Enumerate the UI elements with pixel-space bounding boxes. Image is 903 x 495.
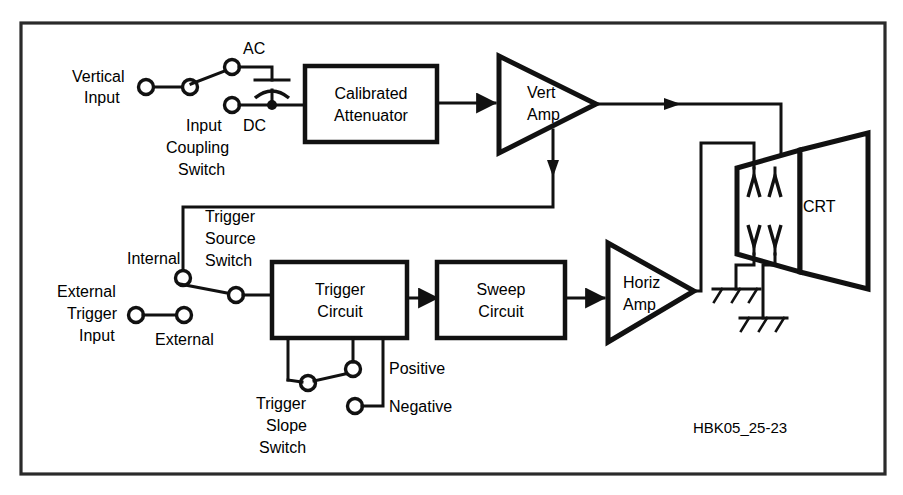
negative-contact-terminal[interactable] <box>348 399 363 414</box>
sweep-circuit-label-line1: Sweep <box>477 281 526 298</box>
external-trigger-input-terminal[interactable] <box>129 308 144 323</box>
calibrated-attenuator-label-line2: Attenuator <box>334 107 409 124</box>
trigger-source-switch-blade[interactable] <box>180 284 232 294</box>
vertical-input-label-line1: Vertical <box>72 68 124 85</box>
external-contact-terminal[interactable] <box>177 308 192 323</box>
trigger-source-switch-label-line1: Trigger <box>205 208 256 225</box>
sweep-circuit-label-line2: Circuit <box>478 303 524 320</box>
trigger-slope-switch-label-line3: Switch <box>259 439 306 456</box>
vert-amp-label-line1: Vert <box>527 84 556 101</box>
trigger-source-pole-terminal[interactable] <box>229 288 244 303</box>
trigger-circuit-block[interactable] <box>272 262 407 338</box>
calibrated-attenuator-label-line1: Calibrated <box>335 85 408 102</box>
coupling-junction-dot <box>267 100 277 110</box>
sweep-circuit-block[interactable] <box>437 262 565 338</box>
oscilloscope-block-diagram: Vertical Input AC DC Input Coupling Swit… <box>0 0 903 495</box>
external-label: External <box>155 331 214 348</box>
ground-2-hatch-3 <box>776 318 784 331</box>
ground-2-hatch-1 <box>741 318 749 331</box>
horiz-amp-block[interactable] <box>608 243 694 342</box>
ground-1-hatch-1 <box>714 289 722 302</box>
vert-amp-block[interactable] <box>499 56 596 153</box>
vertical-input-label-line2: Input <box>84 89 120 106</box>
vert-amp-label-line2: Amp <box>527 106 560 123</box>
trigger-source-switch-label-line2: Source <box>205 230 256 247</box>
negative-label: Negative <box>389 398 452 415</box>
trigger-circuit-label-line2: Circuit <box>317 303 363 320</box>
vertamp-output-arrow <box>664 98 681 110</box>
ground-2-hatch-2 <box>759 318 767 331</box>
input-coupling-switch-label-line1: Input <box>186 117 222 134</box>
negative-drop-wire <box>362 338 383 406</box>
ac-label: AC <box>243 40 265 57</box>
ac-contact-terminal[interactable] <box>225 60 240 75</box>
ground-1-hatch-2 <box>732 289 740 302</box>
external-trigger-input-label-line2: Trigger <box>67 305 118 322</box>
dc-contact-terminal[interactable] <box>225 98 240 113</box>
positive-label: Positive <box>389 360 445 377</box>
crt-label: CRT <box>803 198 836 215</box>
figure-code-label: HBK05_25-23 <box>693 419 787 436</box>
trigger-slope-switch-label-line2: Slope <box>266 417 307 434</box>
slope-pole-connector <box>288 380 302 382</box>
trigger-source-switch-label-line3: Switch <box>205 252 252 269</box>
trigger-slope-switch-label-line1: Trigger <box>256 395 307 412</box>
horiz-amp-label-line2: Amp <box>623 296 656 313</box>
crt-envelope-neck <box>737 150 800 272</box>
ground-1-hatch-3 <box>749 289 757 302</box>
crt-ground-lead-right <box>763 254 775 318</box>
ac-branch-wire <box>239 67 272 80</box>
input-coupling-switch-label-line2: Coupling <box>166 139 229 156</box>
external-trigger-input-label-line3: Input <box>79 327 115 344</box>
vertical-input-terminal[interactable] <box>139 80 154 95</box>
positive-contact-terminal[interactable] <box>346 362 361 377</box>
internal-trigger-arrow <box>547 160 559 177</box>
internal-label: Internal <box>127 250 180 267</box>
horiz-amp-label-line1: Horiz <box>623 274 660 291</box>
external-trigger-input-label-line1: External <box>57 283 116 300</box>
input-coupling-switch-label-line3: Switch <box>178 161 225 178</box>
dc-label: DC <box>243 117 266 134</box>
calibrated-attenuator-block[interactable] <box>305 66 437 142</box>
diagram-page: Vertical Input AC DC Input Coupling Swit… <box>0 0 903 495</box>
trigger-circuit-label-line1: Trigger <box>315 281 366 298</box>
